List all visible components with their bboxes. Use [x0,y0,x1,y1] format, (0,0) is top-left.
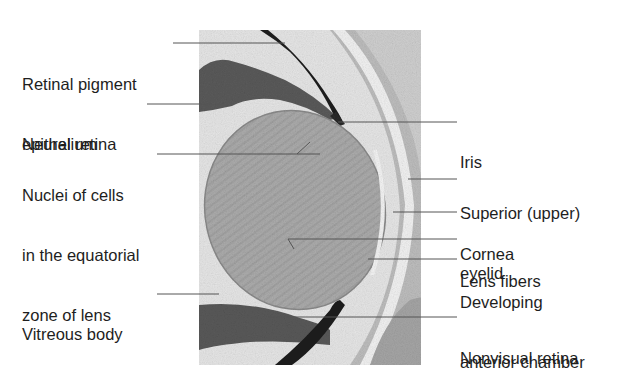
label-vitreous-body: Vitreous body [22,284,123,364]
label-nonvisual-retina: Nonvisual retina [460,308,578,385]
micrograph [186,30,423,365]
